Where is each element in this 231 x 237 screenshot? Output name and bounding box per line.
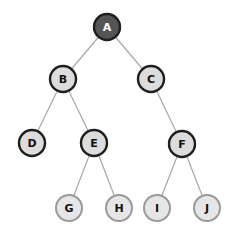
tree-edges — [32, 27, 207, 208]
node-label: B — [59, 73, 67, 86]
binary-tree-diagram: ABCDEFGHIJ — [0, 0, 231, 237]
tree-nodes: ABCDEFGHIJ — [19, 14, 220, 221]
tree-node-f: F — [169, 131, 195, 157]
tree-node-i: I — [144, 195, 170, 221]
tree-node-a: A — [94, 14, 120, 40]
tree-node-c: C — [138, 66, 164, 92]
node-label: I — [155, 202, 159, 215]
tree-node-b: B — [50, 66, 76, 92]
node-label: H — [114, 202, 123, 215]
node-label: C — [147, 73, 155, 86]
tree-node-h: H — [106, 195, 132, 221]
node-label: G — [64, 202, 73, 215]
tree-node-j: J — [194, 195, 220, 221]
node-label: D — [27, 137, 36, 150]
node-label: A — [103, 21, 112, 34]
tree-node-d: D — [19, 130, 45, 156]
node-label: J — [204, 202, 209, 215]
node-label: F — [178, 138, 186, 151]
node-label: E — [90, 137, 98, 150]
tree-node-g: G — [56, 195, 82, 221]
tree-node-e: E — [81, 130, 107, 156]
